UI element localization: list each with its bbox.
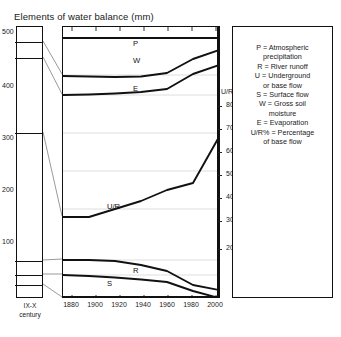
bar-label-200: 200 xyxy=(2,186,14,193)
data-curves xyxy=(63,38,218,298)
plot-area: P W E U/R R S U xyxy=(62,26,218,298)
legend-lines: P = Atmospheric precipitation R = River … xyxy=(233,43,332,146)
x-axis-label-2000: 2000 xyxy=(202,301,228,308)
right-axis-tick xyxy=(218,221,222,222)
legend-line: E = Evaporation xyxy=(233,118,332,127)
x-axis-label-1960: 1960 xyxy=(154,301,180,308)
historical-scale-bar xyxy=(16,26,43,298)
bar-divider xyxy=(15,261,42,262)
chart-figure: Elements of water balance (mm) 500 400 3… xyxy=(0,0,341,337)
curve-s xyxy=(63,275,218,298)
curve-label-s: S xyxy=(107,279,112,288)
x-axis-label-1880: 1880 xyxy=(58,301,84,308)
x-axis-label-1920: 1920 xyxy=(106,301,132,308)
bar-divider xyxy=(15,285,42,286)
bar-label-100: 100 xyxy=(2,238,14,245)
bar-divider xyxy=(15,42,42,43)
curve-e xyxy=(63,65,218,95)
top-axis-ticks xyxy=(72,27,216,31)
right-axis-tick xyxy=(218,198,222,199)
bar-divider xyxy=(15,58,42,59)
curve-label-r: R xyxy=(133,266,138,275)
curve-label-ur: U/R xyxy=(107,202,120,211)
right-axis-tick xyxy=(218,129,222,130)
legend-line: precipitation xyxy=(233,52,332,61)
legend-line: U = Underground xyxy=(233,71,332,80)
x-axis-label-1940: 1940 xyxy=(130,301,156,308)
legend-line: U/R% = Percentage xyxy=(233,128,332,137)
right-axis-tick xyxy=(218,175,222,176)
page-title: Elements of water balance (mm) xyxy=(14,11,154,22)
gridlines xyxy=(63,75,218,275)
x-axis-label-1980: 1980 xyxy=(178,301,204,308)
x-axis-label-1900: 1900 xyxy=(82,301,108,308)
curve-label-p: P xyxy=(133,39,138,48)
curve-label-w: W xyxy=(133,56,140,65)
legend-line: R = River runoff xyxy=(233,62,332,71)
right-axis-line xyxy=(218,26,220,298)
bar-divider xyxy=(15,275,42,276)
legend-line: or base flow xyxy=(233,81,332,90)
legend-line: of base flow xyxy=(233,137,332,146)
legend-line: W = Gross soil xyxy=(233,99,332,108)
plot-svg xyxy=(63,27,218,298)
curve-label-e: E xyxy=(133,84,138,93)
legend-panel: P = Atmospheric precipitation R = River … xyxy=(232,26,333,298)
bar-label-400: 400 xyxy=(2,82,14,89)
bar-divider xyxy=(15,133,42,134)
legend-line: P = Atmospheric xyxy=(233,43,332,52)
legend-line: S = Surface flow xyxy=(233,90,332,99)
bar-label-500: 500 xyxy=(2,28,14,35)
curve-ur xyxy=(63,137,218,217)
legend-line: moisture xyxy=(233,109,332,118)
bar-label-300: 300 xyxy=(2,134,14,141)
right-axis-tick xyxy=(218,152,222,153)
right-axis-tick xyxy=(218,249,222,250)
right-axis-tick xyxy=(218,106,222,107)
